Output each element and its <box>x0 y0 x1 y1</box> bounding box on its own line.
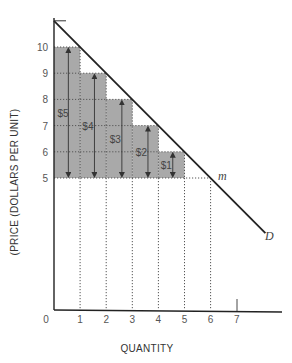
surplus-label-5: $1 <box>161 160 173 171</box>
x-tick-label-0: 0 <box>43 314 49 325</box>
y-tick-label-9: 9 <box>42 68 48 79</box>
point-m-label: m <box>218 169 227 183</box>
demand-label: D <box>264 229 274 243</box>
x-tick-label-5: 5 <box>182 314 188 325</box>
x-tick-label-1: 1 <box>77 314 83 325</box>
x-tick-label-4: 4 <box>156 314 162 325</box>
x-tick-label-6: 6 <box>208 314 214 325</box>
y-tick-label-6: 6 <box>42 147 48 158</box>
surplus-label-3: $3 <box>110 134 122 145</box>
surplus-label-1: $5 <box>58 108 70 119</box>
surplus-label-2: $4 <box>82 121 94 132</box>
y-axis-title: (PRICE (DOLLARS PER UNIT) <box>9 109 20 256</box>
x-tick-label-7: 7 <box>234 314 240 325</box>
y-tick-label-8: 8 <box>42 94 48 105</box>
x-tick-label-2: 2 <box>103 314 109 325</box>
x-tick-label-3: 3 <box>130 314 136 325</box>
x-axis-title: QUANTITY <box>121 343 174 354</box>
y-tick-label-5: 5 <box>42 173 48 184</box>
consumer-surplus-bars <box>54 47 185 178</box>
surplus-label-4: $2 <box>136 147 148 158</box>
chart-canvas: $5$4$3$2$1 012345675678910 m D QUANTITY … <box>0 0 292 363</box>
y-tick-label-10: 10 <box>37 42 49 53</box>
y-tick-label-7: 7 <box>42 121 48 132</box>
x-axis <box>54 310 282 312</box>
